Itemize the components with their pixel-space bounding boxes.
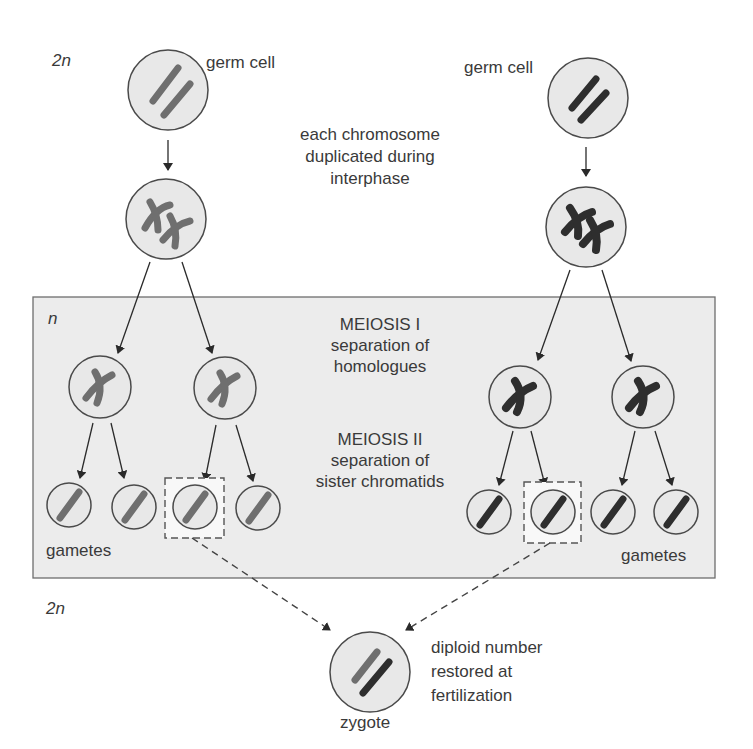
meiosis2-desc-line-2: sister chromatids (288, 471, 472, 492)
left-gamete-3-highlighted (173, 485, 217, 529)
fertilization-note-line-2: restored at (431, 660, 543, 684)
meiosis2-desc-line-1: separation of (288, 450, 472, 471)
right-meiosis1-cell-a (489, 366, 551, 428)
gametes-label-right: gametes (621, 545, 686, 566)
right-duplicated-cell (546, 187, 626, 267)
duplication-note-line-1: each chromosome (285, 124, 455, 146)
left-meiosis1-cell-a (69, 356, 131, 418)
right-gamete-4 (654, 490, 698, 534)
left-gamete-4 (236, 486, 280, 530)
duplication-note-line-2: duplicated during (285, 146, 455, 168)
ploidy-label-top: 2n (52, 50, 71, 71)
right-gamete-1 (467, 490, 511, 534)
left-germ-cell (128, 50, 208, 130)
right-germ-cell (548, 58, 628, 138)
meiosis1-title: MEIOSIS I (288, 314, 472, 335)
ploidy-label-box: n (48, 308, 57, 329)
right-meiosis1-cell-b (612, 366, 674, 428)
ploidy-label-bottom: 2n (46, 598, 65, 619)
zygote-cell (330, 632, 410, 712)
duplication-note: each chromosome duplicated during interp… (285, 124, 455, 190)
germ-cell-label-left: germ cell (206, 52, 275, 73)
left-duplicated-cell (126, 179, 206, 259)
fertilization-note: diploid number restored at fertilization (431, 636, 543, 708)
fertilization-note-line-3: fertilization (431, 684, 543, 708)
left-gamete-2 (112, 485, 156, 529)
zygote-label: zygote (340, 712, 390, 733)
left-meiosis1-cell-b (194, 357, 256, 419)
meiosis2-block: MEIOSIS II separation of sister chromati… (288, 429, 472, 492)
right-gamete-2-highlighted (531, 490, 575, 534)
left-gamete-1 (47, 483, 91, 527)
fertilization-note-line-1: diploid number (431, 636, 543, 660)
germ-cell-label-right: germ cell (464, 57, 533, 78)
gametes-label-left: gametes (46, 540, 111, 561)
meiosis1-desc-line-1: separation of (288, 335, 472, 356)
right-gamete-3 (591, 490, 635, 534)
meiosis1-block: MEIOSIS I separation of homologues (288, 314, 472, 377)
meiosis2-title: MEIOSIS II (288, 429, 472, 450)
duplication-note-line-3: interphase (285, 168, 455, 190)
meiosis1-desc-line-2: homologues (288, 356, 472, 377)
